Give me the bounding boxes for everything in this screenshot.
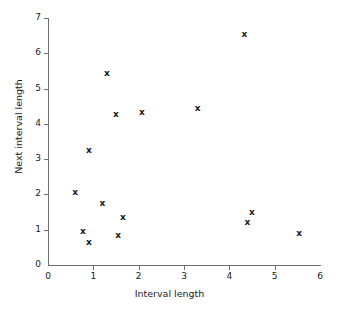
y-tick-mark — [44, 194, 48, 195]
y-tick-mark — [44, 159, 48, 160]
y-tick-label: 3 — [21, 154, 41, 163]
y-tick-label: 4 — [21, 119, 41, 128]
x-tick-mark — [229, 266, 230, 270]
scatter-plot-figure: 01234567 0123456 xxxxxxxxxxxxxxx Interva… — [0, 0, 339, 311]
data-point-marker: x — [241, 30, 247, 39]
data-point-marker: x — [139, 108, 145, 117]
data-point-marker: x — [245, 217, 251, 226]
x-tick-label: 4 — [219, 272, 239, 281]
x-tick-label: 0 — [38, 272, 58, 281]
data-point-marker: x — [296, 228, 302, 237]
data-point-marker: x — [86, 146, 92, 155]
data-point-marker: x — [99, 199, 105, 208]
y-tick-label: 5 — [21, 84, 41, 93]
data-point-marker: x — [120, 213, 126, 222]
data-point-marker: x — [113, 109, 119, 118]
x-tick-label: 6 — [310, 272, 330, 281]
y-tick-label: 2 — [21, 189, 41, 198]
x-tick-label: 1 — [83, 272, 103, 281]
data-point-marker: x — [80, 227, 86, 236]
data-point-marker: x — [195, 103, 201, 112]
y-tick-mark — [44, 89, 48, 90]
y-tick-mark — [44, 53, 48, 54]
y-axis-title: Next interval length — [13, 47, 24, 207]
y-tick-mark — [44, 124, 48, 125]
y-tick-label: 0 — [21, 260, 41, 269]
y-axis-line — [48, 18, 49, 266]
x-tick-mark — [139, 266, 140, 270]
plot-area: 01234567 0123456 xxxxxxxxxxxxxxx — [48, 18, 320, 265]
data-point-marker: x — [115, 231, 121, 240]
data-point-marker: x — [86, 238, 92, 247]
y-tick-label: 6 — [21, 48, 41, 57]
y-tick-label: 7 — [21, 13, 41, 22]
x-tick-label: 5 — [265, 272, 285, 281]
x-tick-label: 3 — [174, 272, 194, 281]
y-tick-mark — [44, 230, 48, 231]
data-point-marker: x — [104, 68, 110, 77]
data-point-marker: x — [249, 208, 255, 217]
data-point-marker: x — [72, 187, 78, 196]
x-tick-label: 2 — [129, 272, 149, 281]
y-tick-label: 1 — [21, 225, 41, 234]
x-tick-mark — [93, 266, 94, 270]
x-tick-mark — [184, 266, 185, 270]
y-tick-mark — [44, 18, 48, 19]
x-tick-mark — [275, 266, 276, 270]
x-axis-title: Interval length — [0, 288, 339, 299]
